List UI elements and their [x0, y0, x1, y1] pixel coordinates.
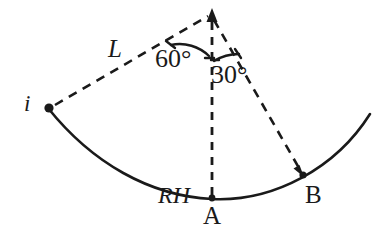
figure-canvas	[0, 0, 392, 250]
label-point-B: B	[305, 182, 322, 207]
dashed-line-apex-to-B	[214, 20, 299, 168]
main-arc	[48, 108, 370, 199]
geometry-figure: L i 60° 30° RH A B	[0, 0, 392, 250]
arrowhead-up-icon	[207, 8, 218, 22]
label-angle-30: 30°	[211, 62, 247, 88]
label-point-RH: RH	[158, 183, 190, 207]
label-point-A: A	[203, 203, 221, 228]
dot-point-i	[44, 103, 53, 112]
label-point-i: i	[24, 92, 30, 115]
label-angle-60: 60°	[155, 46, 191, 72]
dot-point-B	[299, 171, 306, 178]
label-length-L: L	[108, 36, 122, 61]
dot-point-A	[209, 195, 216, 202]
